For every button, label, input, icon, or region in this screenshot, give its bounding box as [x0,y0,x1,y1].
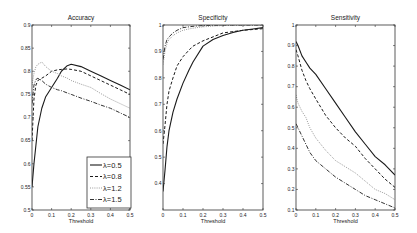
y-tick-label: 0.8 [288,63,295,69]
x-tick-label: 0.5 [260,212,267,218]
specificity-axes-box [163,25,263,210]
sensitivity-series [296,41,395,208]
sensitivity-panel: Sensitivity00.10.20.30.40.50.10.20.30.40… [288,14,399,224]
x-tick-label: 0 [31,212,34,218]
x-tick-label: 0.4 [240,212,247,218]
x-tick-label: 0.3 [352,212,359,218]
y-tick-label: 0.4 [155,180,162,186]
y-tick-label: 0.6 [288,104,295,110]
specificity-panel: Specificity00.10.20.30.40.50.40.50.60.70… [155,14,267,224]
specificity-line [163,28,263,192]
y-tick-label: 0.3 [288,166,295,172]
sensitivity-line [296,124,395,208]
x-tick-label: 0.2 [68,212,75,218]
x-tick-label: 0 [295,212,298,218]
legend-label: λ=1.5 [103,195,122,204]
y-tick-label: 0.55 [21,184,31,190]
y-tick-label: 1 [159,22,162,28]
x-tick-label: 0.4 [107,212,114,218]
chart-canvas: Accuracy00.10.20.30.40.50.50.550.60.650.… [0,0,417,233]
sensitivity-line [296,41,395,175]
y-tick-label: 0.7 [155,101,162,107]
sensitivity-xlabel: Threshold [333,218,357,224]
specificity-line [163,29,263,144]
legend-label: λ=0.8 [103,172,122,181]
y-tick-label: 0.9 [155,48,162,54]
y-tick-label: 0.6 [24,161,31,167]
y-tick-label: 0.8 [24,68,31,74]
sensitivity-line [296,50,395,188]
specificity-line [163,25,263,65]
y-tick-label: 0.8 [155,75,162,81]
x-tick-label: 0.1 [48,212,55,218]
specificity-xlabel: Threshold [201,218,225,224]
x-tick-label: 0 [162,212,165,218]
y-tick-label: 0.5 [288,125,295,131]
y-tick-label: 1 [292,22,295,28]
x-tick-label: 0.1 [180,212,187,218]
x-tick-label: 0.3 [220,212,227,218]
figure: Accuracy00.10.20.30.40.50.50.550.60.650.… [0,0,417,233]
accuracy-xlabel: Threshold [69,218,93,224]
x-tick-label: 0.2 [332,212,339,218]
y-tick-label: 0.5 [24,207,31,213]
legend-label: λ=0.5 [103,161,122,170]
x-tick-label: 0.3 [87,212,94,218]
y-tick-label: 0.5 [155,154,162,160]
x-tick-label: 0.4 [372,212,379,218]
y-tick-label: 0.65 [21,137,31,143]
specificity-title: Specificity [198,14,228,22]
y-tick-label: 0.7 [288,83,295,89]
accuracy-line [32,78,130,117]
accuracy-title: Accuracy [68,14,95,22]
x-tick-label: 0.1 [312,212,319,218]
sensitivity-line [296,95,395,200]
y-tick-label: 0.75 [21,91,31,97]
sensitivity-title: Sensitivity [331,14,361,22]
specificity-series [163,25,263,192]
legend: λ=0.5λ=0.8λ=1.2λ=1.5 [87,157,131,208]
x-tick-label: 0.5 [127,212,134,218]
x-tick-label: 0.5 [392,212,399,218]
y-tick-label: 0.9 [288,42,295,48]
legend-label: λ=1.2 [103,184,122,193]
y-tick-label: 0.85 [21,45,31,51]
y-tick-label: 0.6 [155,128,162,134]
x-tick-label: 0.2 [200,212,207,218]
y-tick-label: 0.4 [288,145,295,151]
y-tick-label: 0.9 [24,22,31,28]
y-tick-label: 0.1 [288,207,295,213]
y-tick-label: 0.2 [288,186,295,192]
y-tick-label: 0.7 [24,114,31,120]
accuracy-line [32,69,130,141]
